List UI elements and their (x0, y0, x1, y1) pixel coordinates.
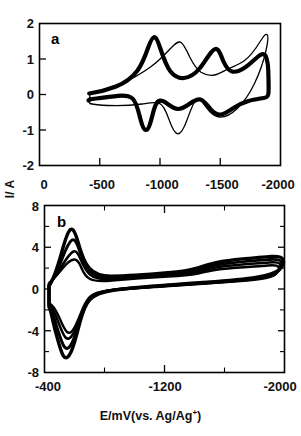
panel-a-xtick-0: 0 (40, 177, 47, 192)
panel-b-ytick-8: 8 (32, 199, 39, 214)
figure-root: 2 1 0 -1 -2 0 -500 -1000 -1500 -2000 a (0, 0, 301, 436)
x-axis-title-suffix: ) (197, 409, 201, 423)
panel-b-ytick-neg4: -4 (27, 324, 39, 339)
panel-b-cycle-inner (49, 251, 280, 338)
panel-a-ytick-2: 2 (27, 16, 34, 31)
panel-b-chart: 8 4 0 -4 -8 -400 -1200 -2000 b (0, 195, 301, 405)
panel-b-xtick-neg2000: -2000 (263, 379, 296, 394)
panel-b-cycle-outer (49, 229, 283, 358)
panel-a-xtick-neg500: -500 (89, 177, 115, 192)
panel-a-ytick-0: 0 (27, 87, 34, 102)
panel-a-ytick-neg2: -2 (22, 158, 34, 173)
panel-a-thick-curve (88, 37, 268, 130)
panel-b-ytick-0: 0 (32, 282, 39, 297)
panel-b-xtick-neg400: -400 (35, 379, 61, 394)
panel-b-ytick-4: 4 (32, 240, 40, 255)
panel-b-letter: b (57, 213, 66, 230)
panel-a-ytick-neg1: -1 (22, 123, 34, 138)
y-axis-title-wrap: I/ A (1, 168, 17, 214)
y-axis-title: I/ A (3, 166, 17, 212)
panel-b-cycle-innermost (49, 259, 279, 332)
panel-a-xtick-neg1500: -1500 (205, 177, 238, 192)
panel-a-ytick-1: 1 (27, 52, 34, 67)
panel-a-x-ticks (100, 158, 221, 166)
panel-b-plot-frame (45, 206, 285, 373)
panel-a-chart: 2 1 0 -1 -2 0 -500 -1000 -1500 -2000 a (0, 0, 301, 195)
panel-a-letter: a (51, 30, 60, 47)
panel-a-xtick-neg2000: -2000 (261, 177, 294, 192)
panel-a-xtick-neg1000: -1000 (145, 177, 178, 192)
panel-b-ytick-neg8: -8 (27, 365, 39, 380)
panel-a-y-ticks (40, 59, 47, 130)
panel-b-xtick-neg1200: -1200 (148, 379, 181, 394)
x-axis-title: E/mV(vs. Ag/Ag+) (0, 408, 301, 423)
x-axis-title-prefix: E/mV(vs. Ag/Ag (100, 409, 193, 423)
